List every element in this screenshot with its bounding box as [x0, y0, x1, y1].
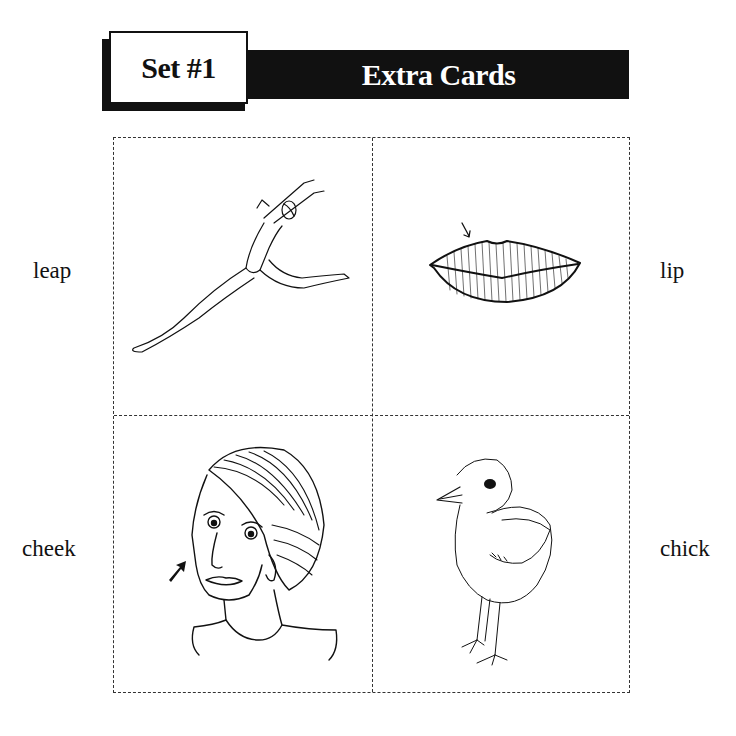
- set-label: Set #1: [141, 51, 216, 85]
- card-lip: [372, 138, 630, 415]
- card-grid: [113, 137, 630, 693]
- baby-chick-illustration: [372, 415, 630, 692]
- word-label-cheek: cheek: [22, 536, 76, 562]
- woman-face-with-arrow-at-cheek-illustration: [114, 415, 372, 692]
- title-bar: Extra Cards: [248, 50, 629, 99]
- page-title: Extra Cards: [362, 58, 516, 92]
- set-label-box: Set #1: [109, 31, 248, 104]
- card-cheek: [114, 415, 372, 692]
- word-label-chick: chick: [660, 536, 710, 562]
- word-label-leap: leap: [33, 258, 71, 284]
- arrow-icon: [169, 561, 186, 582]
- lips-with-arrow-illustration: [372, 138, 630, 415]
- dancer-leaping-illustration: [114, 138, 372, 415]
- word-label-lip: lip: [660, 258, 684, 284]
- card-leap: [114, 138, 372, 415]
- card-chick: [372, 415, 630, 692]
